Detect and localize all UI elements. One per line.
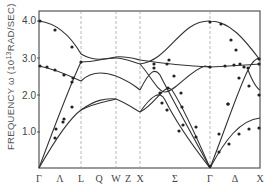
curve-e-XG	[140, 64, 210, 92]
x-tick-labels: Γ Λ L Q W Z X Σ Γ Δ X	[36, 173, 264, 184]
data-points	[38, 19, 260, 167]
plot-frame	[39, 11, 260, 168]
y-tick-2: 2.0	[22, 90, 36, 101]
svg-text:X: X	[256, 173, 264, 184]
curve-mid-WX	[116, 76, 140, 90]
y-tick-labels: 4.0 3.0 2.0 1.0	[22, 15, 40, 137]
svg-text:X: X	[136, 173, 144, 184]
curve-mid-optical-GL	[39, 66, 81, 81]
curve-upper-optical-GL	[39, 21, 81, 54]
svg-text:Γ: Γ	[36, 173, 42, 184]
svg-text:L: L	[78, 173, 84, 184]
svg-text:W: W	[111, 173, 121, 184]
curve-mid-LW	[81, 73, 116, 81]
curve-opt-XG	[140, 21, 260, 64]
curve-TA-GX	[210, 118, 260, 168]
svg-text:Λ: Λ	[56, 173, 64, 184]
svg-text:Q: Q	[95, 173, 103, 184]
symmetry-lines	[81, 11, 210, 168]
svg-text:Z: Z	[125, 173, 131, 184]
svg-text:FREQUENCY ω (1013RAD/SEC): FREQUENCY ω (1013RAD/SEC)	[5, 3, 16, 150]
curve-acoustic-T-GL	[39, 110, 81, 168]
curve-c-XG	[140, 88, 210, 168]
y-tick-3: 3.0	[22, 53, 36, 64]
svg-text:Σ: Σ	[172, 173, 178, 184]
curve-a-LW	[81, 58, 116, 62]
dispersion-curves	[39, 21, 260, 168]
curve-c-WX	[116, 99, 140, 112]
svg-text:Γ: Γ	[207, 173, 213, 184]
phonon-dispersion-chart: FREQUENCY ω (1013RAD/SEC) 4.0 3.0 2.0 1.…	[0, 0, 277, 192]
y-axis-label: FREQUENCY ω (1013RAD/SEC)	[5, 3, 16, 150]
y-tick-4: 4.0	[22, 15, 36, 26]
svg-text:Δ: Δ	[232, 173, 239, 184]
curve-d-XG	[140, 95, 210, 168]
y-tick-1: 1.0	[22, 126, 36, 137]
